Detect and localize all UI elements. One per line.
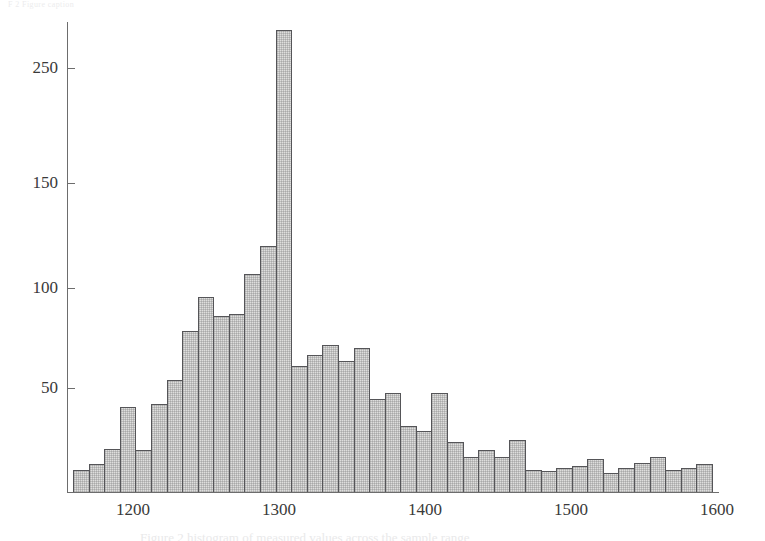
- histogram-plot: 50100150250 12001300140015001600: [0, 0, 765, 541]
- histogram-bar: [447, 442, 464, 492]
- histogram-bar: [603, 473, 620, 492]
- histogram-bar: [556, 468, 573, 492]
- histogram-bar: [525, 470, 542, 492]
- histogram-bar: [400, 426, 417, 492]
- histogram-bars: [0, 0, 765, 541]
- histogram-bar: [135, 450, 152, 492]
- histogram-bar: [681, 468, 698, 492]
- histogram-bar: [416, 431, 433, 492]
- histogram-bar: [104, 449, 121, 492]
- histogram-bar: [385, 393, 402, 492]
- histogram-bar: [182, 331, 199, 492]
- histogram-bar: [587, 459, 604, 492]
- histogram-bar: [354, 348, 371, 492]
- histogram-bar: [151, 404, 168, 492]
- histogram-bar: [509, 440, 526, 492]
- histogram-bar: [369, 399, 386, 492]
- histogram-bar: [244, 274, 261, 492]
- figure-page: F 2 Figure caption 50100150250 120013001…: [0, 0, 765, 541]
- histogram-bar: [120, 407, 137, 492]
- histogram-bar: [463, 457, 480, 492]
- histogram-bar: [572, 466, 589, 492]
- histogram-bar: [198, 297, 215, 492]
- histogram-bar: [73, 470, 90, 492]
- histogram-bar: [494, 457, 511, 492]
- histogram-bar: [89, 464, 106, 492]
- histogram-bar: [167, 380, 184, 492]
- histogram-bar: [650, 457, 667, 492]
- histogram-bar: [634, 463, 651, 492]
- histogram-bar: [618, 468, 635, 492]
- histogram-bar: [322, 345, 339, 492]
- histogram-bar: [665, 470, 682, 492]
- histogram-bar: [478, 450, 495, 492]
- histogram-bar: [307, 355, 324, 492]
- histogram-bar: [696, 464, 713, 492]
- histogram-bar: [276, 30, 293, 492]
- histogram-bar: [213, 316, 230, 492]
- figure-caption: Figure 2 histogram of measured values ac…: [140, 531, 570, 541]
- histogram-bar: [338, 361, 355, 492]
- histogram-bar: [541, 471, 558, 492]
- histogram-bar: [431, 393, 448, 492]
- histogram-bar: [260, 246, 277, 492]
- histogram-bar: [291, 366, 308, 492]
- histogram-bar: [229, 314, 246, 492]
